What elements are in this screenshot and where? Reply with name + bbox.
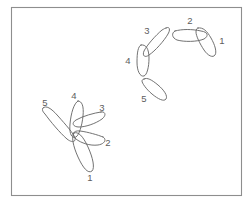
upper-right-cluster: 1 2 3 4 5 xyxy=(125,15,224,104)
lobe-shape-ur-4 xyxy=(137,45,149,76)
label-ur-4: 4 xyxy=(125,55,130,66)
figure-container: 1 2 3 4 5 1 2 3 4 5 xyxy=(0,0,249,204)
label-ll-2: 2 xyxy=(105,137,110,148)
lobe-shape-ll-3 xyxy=(73,112,105,127)
lobe-shape-ur-2 xyxy=(173,30,208,42)
label-ur-3: 3 xyxy=(144,25,149,36)
label-ll-1: 1 xyxy=(87,172,92,183)
label-ll-4: 4 xyxy=(71,90,76,101)
label-ll-5: 5 xyxy=(42,97,47,108)
label-ur-5: 5 xyxy=(141,93,146,104)
diagram-canvas: 1 2 3 4 5 1 2 3 4 5 xyxy=(0,0,249,204)
label-ll-3: 3 xyxy=(99,102,104,113)
lower-left-cluster: 1 2 3 4 5 xyxy=(42,90,110,183)
label-ur-1: 1 xyxy=(219,35,224,46)
label-ur-2: 2 xyxy=(187,15,192,26)
